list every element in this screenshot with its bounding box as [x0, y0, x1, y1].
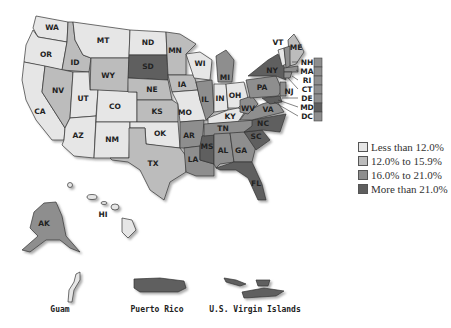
label-MT: MT [97, 36, 110, 45]
legend-item-3: 16.0% to 21.0% [358, 168, 448, 182]
label-NM: NM [105, 135, 119, 144]
label-UT: UT [77, 94, 89, 103]
label-OR: OR [40, 50, 52, 59]
small-states-list: NH MA RI CT DE MD DC [300, 58, 322, 121]
label-NY: NY [266, 66, 278, 75]
label-NV: NV [52, 86, 64, 95]
swatch-NH[interactable] [314, 58, 322, 67]
label-WA: WA [45, 23, 59, 32]
label-PA: PA [257, 83, 268, 92]
label-TX: TX [148, 159, 159, 168]
label-ME: ME [290, 43, 303, 52]
label-usvi: U.S. Virgin Islands [209, 304, 301, 314]
label-guam: Guam [50, 305, 69, 314]
label-NC: NC [257, 119, 269, 128]
label-DC: DC [301, 112, 313, 121]
legend-swatch-3 [358, 170, 368, 180]
label-puerto-rico: Puerto Rico [131, 304, 184, 314]
legend-label-1: Less than 12.0% [371, 141, 444, 153]
label-GA: GA [235, 146, 247, 155]
legend-item-1: Less than 12.0% [358, 140, 448, 154]
label-RI: RI [303, 76, 312, 85]
label-MA: MA [300, 67, 313, 76]
label-IA: IA [178, 80, 187, 89]
label-ND: ND [142, 38, 155, 47]
label-KS: KS [151, 107, 162, 116]
state-AK[interactable] [22, 202, 80, 252]
label-AK: AK [38, 219, 51, 228]
label-CO: CO [109, 102, 121, 111]
label-IN: IN [215, 94, 224, 103]
label-WY: WY [101, 71, 115, 80]
swatch-RI[interactable] [314, 76, 322, 85]
legend-swatch-1 [358, 142, 368, 152]
label-ID: ID [70, 58, 79, 67]
label-TN: TN [217, 124, 228, 133]
swatch-MD[interactable] [314, 103, 322, 112]
label-MD: MD [300, 103, 314, 112]
label-AZ: AZ [72, 131, 84, 140]
label-LA: LA [188, 155, 199, 164]
label-OH: OH [229, 91, 242, 100]
swatch-DE[interactable] [314, 94, 322, 103]
legend-label-2: 12.0% to 15.9% [371, 155, 442, 167]
territory-guam[interactable] [68, 272, 80, 302]
label-MN: MN [168, 46, 182, 55]
legend-item-4: More than 21.0% [358, 182, 448, 196]
label-KY: KY [224, 112, 236, 121]
legend-item-2: 12.0% to 15.9% [358, 154, 448, 168]
label-AL: AL [218, 146, 229, 155]
territory-puerto-rico[interactable] [134, 278, 186, 292]
state-CT[interactable] [284, 72, 292, 78]
label-NE: NE [146, 85, 157, 94]
label-SD: SD [142, 62, 154, 71]
label-VT: VT [273, 38, 285, 47]
label-WI: WI [194, 59, 205, 68]
label-MS: MS [201, 142, 214, 151]
legend-label-4: More than 21.0% [371, 183, 448, 195]
label-MI: MI [220, 73, 230, 82]
label-CA: CA [34, 107, 46, 116]
label-AR: AR [183, 131, 195, 140]
label-IL: IL [201, 95, 209, 104]
territory-usvi[interactable] [224, 278, 284, 298]
label-OK: OK [154, 129, 167, 138]
label-WV: WV [241, 104, 255, 113]
swatch-CT[interactable] [314, 85, 322, 94]
label-CT: CT [302, 85, 314, 94]
label-VA: VA [262, 105, 273, 114]
label-DE: DE [301, 94, 312, 103]
legend-swatch-4 [358, 184, 368, 194]
label-FL: FL [251, 179, 261, 188]
swatch-MA[interactable] [314, 67, 322, 76]
swatch-DC[interactable] [314, 112, 322, 121]
label-MO: MO [178, 108, 192, 117]
legend-swatch-2 [358, 156, 368, 166]
label-HI: HI [98, 210, 107, 219]
label-NJ: NJ [284, 87, 293, 96]
legend-label-3: 16.0% to 21.0% [371, 169, 442, 181]
label-NH: NH [301, 58, 314, 67]
legend: Less than 12.0% 12.0% to 15.9% 16.0% to … [358, 140, 448, 196]
label-SC: SC [251, 132, 262, 141]
